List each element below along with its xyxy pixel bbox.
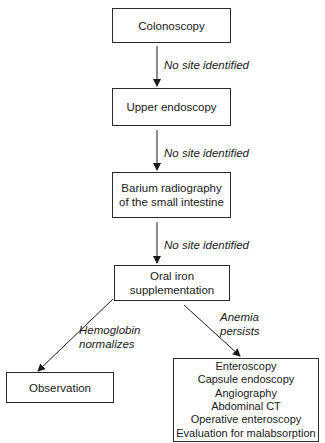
edge-label-anemia-line-2: persists (220, 324, 260, 338)
node-colonoscopy-label: Colonoscopy (138, 19, 204, 33)
node-oral-iron: Oral iron supplementation (114, 265, 230, 301)
node-colonoscopy: Colonoscopy (112, 8, 231, 43)
edge-label-barium-to-iron: No site identified (164, 238, 249, 252)
workup-item-angiography: Angiography (215, 387, 277, 400)
workup-item-abdominal-ct: Abdominal CT (211, 400, 281, 413)
workup-item-enteroscopy: Enteroscopy (215, 360, 276, 373)
edge-label-hemoglobin-line-2: normalizes (79, 337, 140, 351)
edge-label-anemia-line-1: Anemia (220, 310, 260, 324)
edge-label-hemoglobin-line-1: Hemoglobin (79, 323, 140, 337)
edge-label-anemia-persists: Anemia persists (220, 310, 260, 338)
node-barium-line-1: Barium radiography (121, 181, 221, 195)
edge-label-colonoscopy-to-upper: No site identified (164, 58, 249, 72)
workup-item-malabsorption-evaluation: Evaluation for malabsorption (176, 427, 315, 440)
node-further-workup: Enteroscopy Capsule endoscopy Angiograph… (173, 358, 319, 442)
node-observation-label: Observation (29, 381, 91, 395)
workup-item-capsule-endoscopy: Capsule endoscopy (198, 373, 295, 386)
node-upper-endoscopy: Upper endoscopy (112, 88, 231, 126)
edge-label-upper-to-barium: No site identified (164, 146, 249, 160)
node-barium-line-2: of the small intestine (119, 195, 224, 209)
edge-label-hemoglobin-normalizes: Hemoglobin normalizes (79, 323, 140, 351)
workup-item-operative-enteroscopy: Operative enteroscopy (191, 413, 302, 426)
node-upper-endoscopy-label: Upper endoscopy (126, 100, 216, 114)
node-observation: Observation (6, 372, 114, 403)
node-oral-iron-line-1: Oral iron (150, 269, 194, 283)
node-barium-radiography: Barium radiography of the small intestin… (112, 172, 231, 218)
node-oral-iron-line-2: supplementation (130, 283, 214, 297)
